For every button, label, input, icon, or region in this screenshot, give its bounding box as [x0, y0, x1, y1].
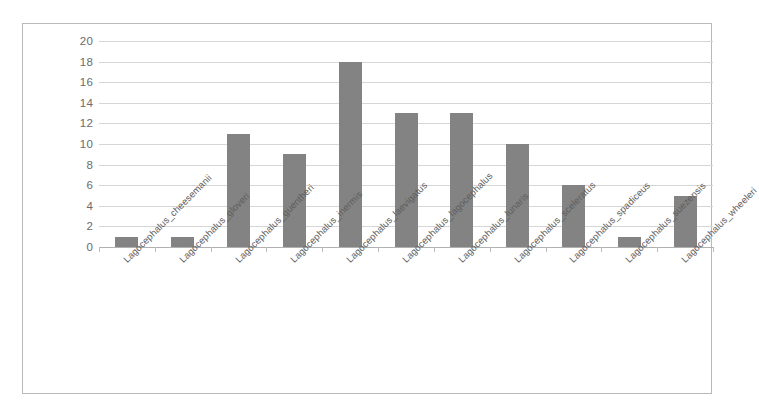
y-tick-label-8: 8 [86, 159, 93, 171]
y-tick-label-12: 12 [80, 117, 93, 129]
bar[interactable] [227, 134, 250, 247]
y-tick-label-10: 10 [80, 138, 93, 150]
y-tick-label-0: 0 [86, 241, 93, 253]
y-tick-label-14: 14 [80, 97, 93, 109]
y-tick-label-20: 20 [80, 35, 93, 47]
y-tick-label-16: 16 [80, 76, 93, 88]
bar[interactable] [450, 113, 473, 247]
bar[interactable] [339, 62, 362, 247]
x-axis-labels: Lagocephalus_cheesemaniiLagocephalus_glo… [99, 247, 713, 387]
chart-frame: 20181614121086420 Lagocephalus_cheeseman… [22, 23, 712, 394]
y-tick-label-4: 4 [86, 200, 93, 212]
x-tick [713, 247, 714, 252]
y-tick-label-6: 6 [86, 179, 93, 191]
y-axis: 20181614121086420 [23, 24, 99, 393]
y-tick-label-2: 2 [86, 220, 93, 232]
bar[interactable] [395, 113, 418, 247]
y-tick-label-18: 18 [80, 56, 93, 68]
